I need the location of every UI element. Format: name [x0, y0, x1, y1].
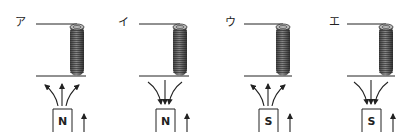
panel-e: エ S: [309, 0, 412, 137]
coil-icon: [173, 24, 187, 76]
magnet-pole-label: N: [53, 116, 72, 127]
coil-icon: [70, 24, 84, 76]
coil-icon: [276, 24, 290, 76]
coil-diagram: [309, 0, 412, 137]
field-lines-inward-icon: [354, 80, 388, 104]
panel-u: ウ S: [206, 0, 309, 137]
coil-icon: [379, 24, 393, 76]
field-lines-outward-icon: [45, 84, 79, 106]
coil-diagram: [0, 0, 103, 137]
field-lines-inward-icon: [148, 80, 182, 104]
panel-a: ア N: [0, 0, 103, 137]
coil-diagram: [103, 0, 206, 137]
magnet-pole-label: S: [259, 116, 278, 127]
magnet-pole-label: S: [362, 116, 381, 127]
field-lines-outward-icon: [251, 84, 285, 106]
coil-diagram: [206, 0, 309, 137]
panel-i: イ N: [103, 0, 206, 137]
magnet-pole-label: N: [156, 116, 175, 127]
